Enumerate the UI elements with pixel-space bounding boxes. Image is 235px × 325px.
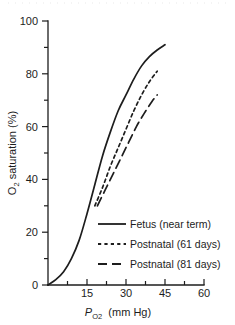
- x-tick-label-30: 30: [120, 287, 132, 299]
- curve-postnatal-81-days: [97, 95, 157, 206]
- svg-text:O2 saturation (%): O2 saturation (%): [6, 111, 21, 195]
- legend-label-fetus: Fetus (near term): [130, 218, 211, 230]
- legend-item-fetus: Fetus (near term): [98, 218, 211, 230]
- oxygen-dissociation-curve-figure: 0 20 40 60 80 100 O2 saturation (%): [0, 0, 235, 325]
- x-axis-title-unit: (mm Hg): [108, 306, 151, 318]
- y-axis-tick-labels: 0 20 40 60 80 100: [20, 15, 38, 291]
- y-tick-label-40: 40: [26, 173, 38, 185]
- y-axis-title: O2 saturation (%): [6, 111, 21, 195]
- y-tick-label-0: 0: [32, 279, 38, 291]
- curve-postnatal-61-days: [95, 71, 157, 206]
- x-tick-label-45: 45: [159, 287, 171, 299]
- x-axis-title: PO2 (mm Hg): [85, 306, 151, 321]
- legend-item-postnatal-81: Postnatal (81 days): [98, 258, 220, 270]
- y-tick-label-20: 20: [26, 226, 38, 238]
- x-tick-label-60: 60: [198, 287, 210, 299]
- legend-label-postnatal-81: Postnatal (81 days): [130, 258, 220, 270]
- legend: Fetus (near term) Postnatal (61 days) Po…: [98, 218, 220, 270]
- y-axis-title-rest: saturation (%): [6, 111, 18, 183]
- svg-text:PO2 (mm Hg): PO2 (mm Hg): [85, 306, 151, 321]
- x-tick-label-15: 15: [81, 287, 93, 299]
- legend-item-postnatal-61: Postnatal (61 days): [98, 238, 220, 250]
- y-tick-label-60: 60: [26, 121, 38, 133]
- y-tick-label-80: 80: [26, 68, 38, 80]
- legend-label-postnatal-61: Postnatal (61 days): [130, 238, 220, 250]
- chart-canvas: 0 20 40 60 80 100 O2 saturation (%): [0, 0, 235, 325]
- y-tick-label-100: 100: [20, 15, 38, 27]
- x-axis-tick-labels: 15 30 45 60: [81, 287, 210, 299]
